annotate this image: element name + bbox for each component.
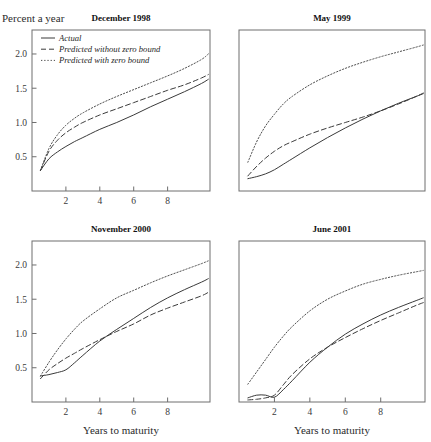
series-line-dotted <box>248 270 423 384</box>
x-tick-label: 8 <box>378 407 383 417</box>
legend-label-actual: Actual <box>58 33 82 43</box>
x-tick-label: 6 <box>343 407 348 417</box>
legend-label-pred_no_zb: Predicted without zero bound <box>58 44 161 54</box>
y-axis-title: Percent a year <box>2 12 65 24</box>
y-tick-label: 2.0 <box>15 260 27 270</box>
panel-top-left: December 19980.51.01.52.02468Percent a y… <box>2 12 210 206</box>
y-tick-label: 1.5 <box>15 295 27 305</box>
legend-label-pred_zb: Predicted with zero bound <box>58 55 150 65</box>
panel-title-bottom-right: June 2001 <box>313 224 352 234</box>
x-tick-label: 4 <box>307 407 312 417</box>
panel-bottom-left: November 20000.51.01.52.02468Years to ma… <box>15 224 210 436</box>
x-axis-title: Years to maturity <box>83 424 159 436</box>
x-tick-label: 2 <box>64 196 69 206</box>
x-tick-label: 6 <box>131 407 136 417</box>
plot-frame-bottom-right <box>239 241 425 402</box>
y-tick-label: 0.5 <box>15 363 27 373</box>
legend: ActualPredicted without zero boundPredic… <box>41 33 161 65</box>
panel-title-top-left: December 1998 <box>91 13 151 23</box>
x-tick-label: 2 <box>64 407 69 417</box>
series-line-dashed <box>40 292 208 378</box>
x-tick-label: 8 <box>165 196 170 206</box>
y-tick-label: 0.5 <box>15 152 27 162</box>
panel-top-right: May 1999 <box>239 13 425 191</box>
x-tick-label: 2 <box>272 407 277 417</box>
plot-frame-top-right <box>239 30 425 191</box>
panel-title-bottom-left: November 2000 <box>91 224 152 234</box>
four-panel-yield-curve-figure: December 19980.51.01.52.02468Percent a y… <box>0 0 431 442</box>
series-line-dashed <box>248 303 423 400</box>
panel-title-top-right: May 1999 <box>313 13 351 23</box>
series-line-dotted <box>40 54 208 170</box>
y-tick-label: 1.0 <box>15 118 27 128</box>
plot-frame-bottom-left <box>32 241 210 402</box>
y-tick-label: 2.0 <box>15 49 27 59</box>
series-line-dashed <box>248 93 423 176</box>
y-tick-label: 1.5 <box>15 84 27 94</box>
panel-bottom-right: June 20012468Years to maturity <box>239 224 425 436</box>
x-tick-label: 8 <box>165 407 170 417</box>
x-tick-label: 4 <box>97 196 102 206</box>
series-line-solid <box>248 94 423 179</box>
x-tick-label: 6 <box>131 196 136 206</box>
x-tick-label: 4 <box>97 407 102 417</box>
y-tick-label: 1.0 <box>15 329 27 339</box>
series-line-dashed <box>40 75 208 171</box>
x-axis-title: Years to maturity <box>294 424 370 436</box>
series-line-solid <box>40 279 208 376</box>
